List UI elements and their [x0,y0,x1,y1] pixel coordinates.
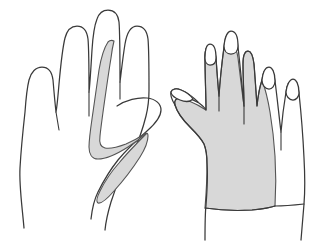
right-ring-nail [262,67,275,89]
hand-dermatome-figure: Hand dermatome / sensory distribution di… [0,0,329,243]
hands-diagram-svg: Hand dermatome / sensory distribution di… [0,0,329,243]
right-index-nail [205,44,216,65]
right-middle-nail [224,31,238,54]
